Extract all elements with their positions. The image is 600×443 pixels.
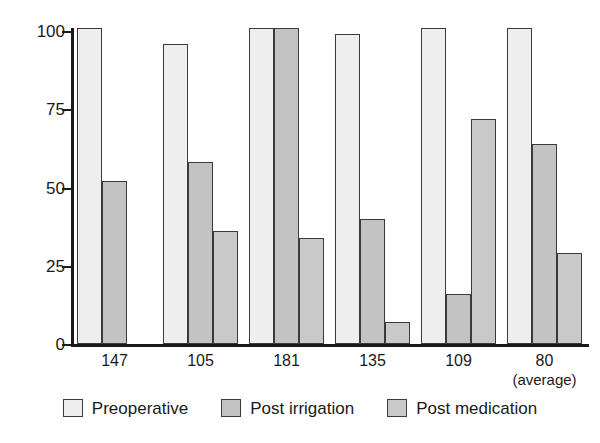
bar-109-post-medication bbox=[471, 119, 496, 344]
bar-105-preoperative bbox=[163, 44, 188, 344]
bar-181-preoperative bbox=[249, 28, 274, 344]
bar-181-post-irrigation bbox=[274, 28, 299, 344]
bar-80-post-medication bbox=[557, 253, 582, 344]
legend-swatch-preoperative bbox=[63, 399, 83, 417]
bar-135-post-medication bbox=[385, 322, 410, 344]
bar-105-post-irrigation bbox=[188, 162, 213, 344]
bar-147-preoperative bbox=[77, 28, 102, 344]
x-tick-label-80: 80 bbox=[536, 352, 554, 370]
bar-147-post-irrigation bbox=[102, 181, 127, 344]
legend-item-post-medication[interactable]: Post medication bbox=[387, 399, 537, 417]
y-tick-label: 0 bbox=[56, 336, 65, 353]
chart-legend: PreoperativePost irrigationPost medicati… bbox=[0, 392, 600, 424]
y-tick-label: 25 bbox=[46, 257, 65, 274]
bar-109-post-irrigation bbox=[446, 294, 471, 344]
y-tick-label: 50 bbox=[46, 179, 65, 196]
legend-swatch-post-irrigation bbox=[221, 399, 241, 417]
legend-label: Post medication bbox=[416, 400, 537, 417]
bar-80-preoperative bbox=[507, 28, 532, 344]
bar-135-post-irrigation bbox=[360, 219, 385, 344]
bar-135-preoperative bbox=[335, 34, 360, 344]
x-tick-label-105: 105 bbox=[187, 352, 214, 370]
plot-area bbox=[73, 31, 589, 344]
legend-label: Post irrigation bbox=[250, 400, 354, 417]
legend-item-preoperative[interactable]: Preoperative bbox=[63, 399, 188, 417]
bar-chart-figure: Percent bacteria-free canals 0255075100 … bbox=[0, 0, 600, 443]
legend-label: Preoperative bbox=[92, 400, 188, 417]
x-tick-label-109: 109 bbox=[445, 352, 472, 370]
bar-181-post-medication bbox=[299, 238, 324, 344]
bar-105-post-medication bbox=[213, 231, 238, 344]
bar-109-preoperative bbox=[421, 28, 446, 344]
x-tick-label-147: 147 bbox=[101, 352, 128, 370]
x-axis-line bbox=[71, 344, 589, 347]
legend-item-post-irrigation[interactable]: Post irrigation bbox=[221, 399, 354, 417]
x-tick-sublabel-80: (average) bbox=[512, 371, 576, 388]
legend-swatch-post-medication bbox=[387, 399, 407, 417]
x-tick-label-181: 181 bbox=[273, 352, 300, 370]
x-tick-label-135: 135 bbox=[359, 352, 386, 370]
y-tick-label: 75 bbox=[46, 101, 65, 118]
y-tick-label: 100 bbox=[37, 23, 65, 40]
bar-80-post-irrigation bbox=[532, 144, 557, 344]
